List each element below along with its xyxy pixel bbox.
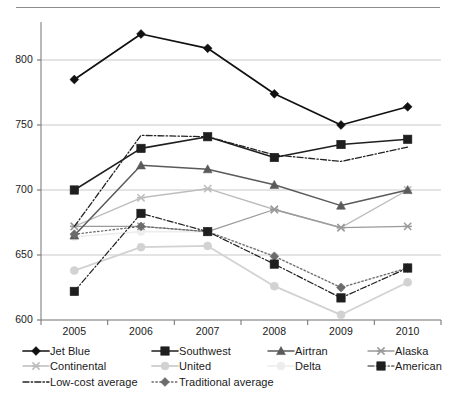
data-point-square [270, 153, 278, 161]
data-point-circle [204, 242, 212, 250]
data-point-x [270, 206, 278, 213]
legend-item-united[interactable]: United [151, 359, 211, 374]
legend-label: Southwest [179, 344, 231, 358]
series-united [70, 242, 411, 319]
legend-item-airtran[interactable]: Airtran [267, 343, 328, 358]
data-point-diamond [32, 346, 41, 355]
data-point-circle [137, 243, 145, 251]
series-continental [70, 185, 412, 231]
data-point-x [337, 224, 345, 231]
legend-key-diamond-marker [22, 344, 50, 358]
y-axis-tick-label: 750 [0, 118, 33, 130]
data-point-circle [161, 362, 169, 370]
legend-item-traditional-average[interactable]: Traditional average [151, 374, 274, 389]
legend-item-american[interactable]: American [367, 359, 442, 374]
data-point-diamond [270, 252, 279, 261]
legend-key-x-marker [367, 344, 395, 358]
legend-item-jet-blue[interactable]: Jet Blue [22, 343, 90, 358]
legend-row: Jet BlueSouthwestAirtranAlaska [22, 343, 446, 358]
data-point-x [377, 347, 385, 354]
line-chart-plot [0, 0, 451, 340]
data-point-x [32, 362, 40, 369]
y-axis-tick-label: 700 [0, 183, 33, 195]
series-jet-blue [70, 30, 412, 130]
legend-row: Low-cost averageTraditional average [22, 374, 446, 389]
legend-item-low-cost-average[interactable]: Low-cost average [22, 374, 138, 389]
x-axis-tick-label: 2006 [115, 325, 167, 337]
data-point-square [203, 227, 211, 235]
data-point-circle [277, 362, 285, 370]
y-axis-tick-label: 800 [0, 53, 33, 65]
data-point-circle [270, 282, 278, 290]
data-point-x [403, 223, 411, 230]
y-axis-tick-label: 650 [0, 248, 33, 260]
data-point-square [337, 140, 345, 148]
legend-key-square-marker [367, 359, 395, 373]
legend-label: Alaska [395, 344, 428, 358]
legend-label: American [395, 359, 442, 373]
legend-item-continental[interactable]: Continental [22, 359, 106, 374]
legend-key-circle-marker [151, 359, 179, 373]
legend-label: Continental [50, 359, 106, 373]
legend-key-square-marker [151, 344, 179, 358]
data-point-diamond [337, 121, 346, 130]
data-point-square [270, 260, 278, 268]
data-point-square [70, 186, 78, 194]
data-point-square [137, 209, 145, 217]
data-point-square [70, 287, 78, 295]
data-point-square [403, 135, 411, 143]
legend-label: United [179, 359, 211, 373]
series-alaska [70, 206, 412, 235]
legend-key-line [22, 375, 50, 389]
legend-row: ContinentalUnitedDeltaAmerican [22, 359, 446, 374]
legend-label: Jet Blue [50, 344, 90, 358]
legend-label: Low-cost average [50, 375, 138, 389]
legend-key-circle-marker [267, 359, 295, 373]
data-point-circle [70, 267, 78, 275]
legend-item-alaska[interactable]: Alaska [367, 343, 428, 358]
y-axis-tick-label: 600 [0, 313, 33, 325]
data-point-square [337, 294, 345, 302]
data-point-x [203, 185, 211, 192]
x-axis-tick-label: 2010 [382, 325, 434, 337]
legend-label: Delta [295, 359, 321, 373]
data-point-square [203, 133, 211, 141]
data-point-square [137, 144, 145, 152]
x-axis-tick-label: 2007 [182, 325, 234, 337]
legend-key-x-marker [22, 359, 50, 373]
series-low-cost-average [74, 135, 407, 226]
legend-label: Airtran [295, 344, 328, 358]
legend-item-delta[interactable]: Delta [267, 359, 321, 374]
chart-legend: Jet BlueSouthwestAirtranAlaskaContinenta… [22, 343, 446, 389]
legend-item-southwest[interactable]: Southwest [151, 343, 231, 358]
x-axis-tick-label: 2009 [315, 325, 367, 337]
data-point-x [137, 194, 145, 201]
legend-key-diamond-marker [151, 375, 179, 389]
data-point-circle [337, 311, 345, 319]
data-point-diamond [403, 102, 412, 111]
data-point-square [403, 264, 411, 272]
x-axis-tick-label: 2005 [48, 325, 100, 337]
data-point-diamond [337, 283, 346, 292]
data-point-square [377, 362, 385, 370]
legend-label: Traditional average [179, 375, 274, 389]
series-american [70, 209, 412, 302]
x-axis-tick-label: 2008 [248, 325, 300, 337]
legend-key-triangle-marker [267, 344, 295, 358]
series-delta [70, 228, 411, 292]
chart-figure: 600650700750800 200520062007200820092010… [0, 0, 451, 393]
data-point-diamond [161, 377, 170, 386]
data-point-square [161, 346, 169, 354]
data-point-circle [404, 278, 412, 286]
